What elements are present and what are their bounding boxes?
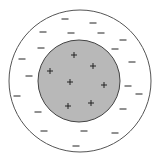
inner-sphere-circle	[38, 40, 120, 122]
charge-diagram: Charge distribution: positive inner sphe…	[0, 0, 160, 163]
